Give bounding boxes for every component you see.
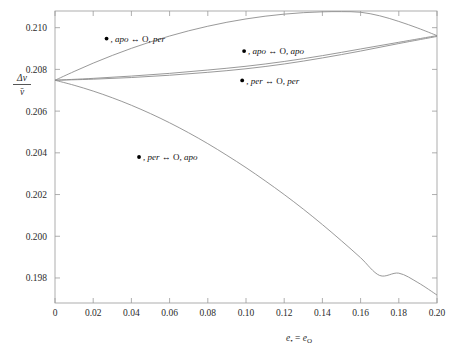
figure-container: 00.020.040.060.080.100.120.140.160.180.2… (0, 0, 454, 351)
x-tick-label: 0.04 (123, 308, 140, 318)
annotation-label: , per ↔ O, per (246, 76, 299, 86)
plot-frame (55, 11, 437, 303)
annotation-label: , apo ↔ O, apo (248, 46, 305, 56)
curve-annotation-3: , per ↔ O, per (240, 76, 299, 86)
x-tick-label: 0 (53, 308, 58, 318)
annotation-label: , apo ↔ O, per (111, 34, 166, 44)
x-tick-label: 0.16 (352, 308, 369, 318)
annotation-label-text: , apo ↔ (248, 46, 280, 56)
y-axis-title: Δvv̄ (13, 73, 31, 97)
annotation-label-suffix: , apo (180, 152, 199, 162)
y-axis-title-numerator: Δv (16, 73, 28, 83)
curve-annotation-4: , per ↔ O, apo (137, 152, 198, 162)
curve-annotation-1: , apo ↔ O, per (105, 34, 166, 44)
annotation-label: , per ↔ O, apo (143, 152, 198, 162)
annotation-label-text: , per ↔ (246, 76, 276, 86)
curve-annotation-2: , apo ↔ O, apo (242, 46, 304, 56)
x-tick-label: 0.20 (429, 308, 446, 318)
x-tick-label: 0.08 (199, 308, 216, 318)
x-tick-label: 0.14 (314, 308, 331, 318)
y-axis-title-denominator: v̄ (20, 87, 25, 97)
data-curve-4 (55, 80, 437, 295)
y-tick-label: 0.202 (26, 190, 48, 200)
x-tick-label: 0.02 (85, 308, 102, 318)
y-tick-label: 0.200 (26, 232, 48, 242)
annotation-marker-dot (240, 79, 244, 83)
x-tick-label: 0.12 (276, 308, 293, 318)
curves-group (55, 12, 437, 295)
annotation-label-suffix: , per (149, 34, 166, 44)
x-axis-title: e• = eO (286, 333, 312, 345)
x-axis-title-equals: = (293, 333, 303, 343)
y-tick-label: 0.204 (26, 148, 48, 158)
annotation-label-text: , apo ↔ (111, 34, 143, 44)
y-tick-label: 0.198 (26, 273, 48, 283)
annotation-marker-dot (242, 49, 246, 53)
scatter-line-plot: 00.020.040.060.080.100.120.140.160.180.2… (0, 0, 454, 351)
annotation-marker-dot (105, 37, 109, 41)
x-axis-title-sub2: O (307, 337, 312, 345)
y-tick-label: 0.206 (26, 107, 48, 117)
annotation-label-suffix: , per (283, 76, 300, 86)
y-tick-label: 0.208 (26, 65, 48, 75)
x-tick-label: 0.18 (390, 308, 407, 318)
annotation-marker-dot (137, 155, 141, 159)
annotation-label-suffix: , apo (286, 46, 305, 56)
annotation-label-text: , per ↔ (143, 152, 173, 162)
y-tick-label: 0.210 (26, 23, 48, 33)
x-tick-label: 0.10 (238, 308, 255, 318)
x-axis-title-text: e• = eO (286, 333, 312, 345)
x-tick-label: 0.06 (161, 308, 178, 318)
